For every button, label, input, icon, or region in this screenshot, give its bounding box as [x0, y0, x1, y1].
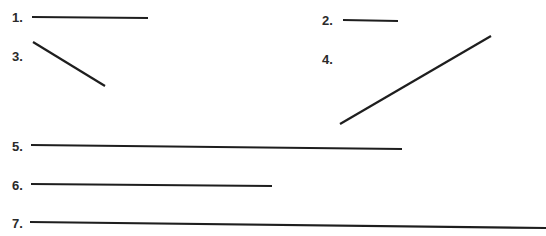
line-segment-3	[33, 42, 105, 86]
line-segment-7	[30, 222, 546, 228]
line-segment-2	[343, 20, 398, 21]
line-segments-diagram	[0, 0, 546, 236]
line-segment-1	[32, 17, 148, 18]
line-segment-6	[31, 184, 272, 186]
line-segment-5	[31, 145, 402, 149]
line-segment-4	[340, 36, 491, 124]
